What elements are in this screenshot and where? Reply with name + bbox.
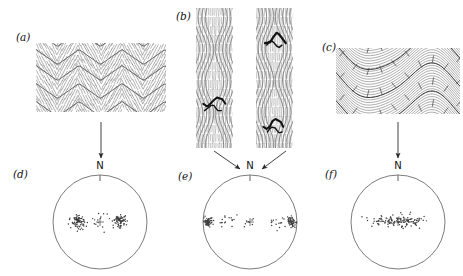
stereonet-f xyxy=(351,175,445,269)
panel-b-sketch-right xyxy=(247,6,301,153)
stereonet-d xyxy=(53,175,147,269)
figure-root: (a) (b) (c) (d) (e) (f) N N N xyxy=(0,0,463,276)
panel-b-sketch-left xyxy=(187,6,241,153)
arrow-b-right-to-e xyxy=(262,151,286,169)
connector-arrows xyxy=(101,122,398,169)
figure-drawing xyxy=(0,0,463,276)
panel-a-sketch xyxy=(32,29,170,133)
stereonet-e xyxy=(203,175,297,269)
arrow-b-left-to-e xyxy=(214,151,240,169)
